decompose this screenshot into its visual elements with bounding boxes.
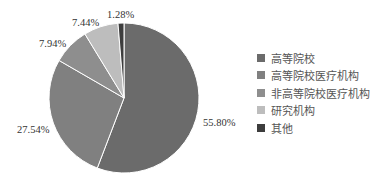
legend-label: 高等院校医疗机构 bbox=[271, 67, 359, 83]
label-slice-1: 27.54% bbox=[17, 124, 49, 135]
label-slice-3: 7.44% bbox=[72, 17, 99, 28]
legend-swatch bbox=[257, 71, 265, 79]
legend-item: 非高等院校医疗机构 bbox=[257, 84, 370, 102]
legend-item: 高等院校医疗机构 bbox=[257, 67, 370, 85]
legend-item: 研究机构 bbox=[257, 102, 370, 120]
legend-item: 其他 bbox=[257, 119, 370, 137]
legend-swatch bbox=[257, 54, 265, 62]
legend-swatch bbox=[257, 124, 265, 132]
legend-item: 高等院校 bbox=[257, 49, 370, 67]
legend-label: 非高等院校医疗机构 bbox=[271, 85, 370, 101]
legend-swatch bbox=[257, 106, 265, 114]
legend-swatch bbox=[257, 89, 265, 97]
legend-label: 研究机构 bbox=[271, 102, 315, 118]
legend-label: 其他 bbox=[271, 120, 293, 136]
chart-legend: 高等院校 高等院校医疗机构 非高等院校医疗机构 研究机构 其他 bbox=[257, 49, 370, 137]
label-slice-2: 7.94% bbox=[39, 38, 66, 49]
legend-label: 高等院校 bbox=[271, 50, 315, 66]
pie-chart bbox=[0, 0, 250, 185]
label-slice-4: 1.28% bbox=[107, 9, 134, 20]
label-slice-0: 55.80% bbox=[203, 117, 235, 128]
